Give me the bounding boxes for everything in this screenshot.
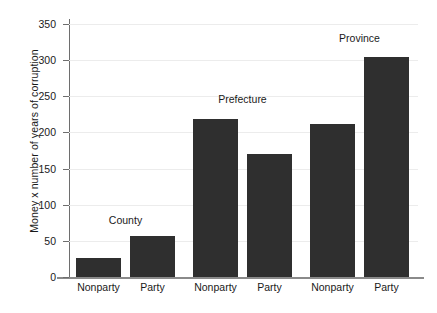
x-tick-label: Nonparty — [77, 281, 120, 293]
y-tick-label: 300 — [22, 54, 56, 66]
bar — [76, 258, 121, 277]
y-tick-mark — [63, 241, 69, 242]
x-tick-label: Party — [374, 281, 399, 293]
gridline — [69, 24, 418, 25]
x-tick-label: Nonparty — [311, 281, 354, 293]
y-tick-mark — [63, 205, 69, 206]
y-tick-mark — [63, 132, 69, 133]
bar — [364, 57, 409, 277]
y-tick-label: 200 — [22, 126, 56, 138]
y-tick-label: 50 — [22, 235, 56, 247]
x-tick-label: Party — [140, 281, 165, 293]
y-tick-mark — [63, 277, 69, 278]
y-tick-label: 250 — [22, 90, 56, 102]
y-tick-mark — [63, 169, 69, 170]
plot-area — [69, 19, 418, 277]
group-label: County — [109, 214, 142, 226]
y-axis-title: Money x number of years of corruption — [28, 11, 40, 271]
y-tick-label: 100 — [22, 199, 56, 211]
bar — [310, 124, 355, 277]
y-tick-label: 350 — [22, 18, 56, 30]
bar — [193, 119, 238, 277]
group-label: Province — [339, 32, 380, 44]
bar — [247, 154, 292, 277]
y-tick-mark — [63, 24, 69, 25]
y-tick-label: 0 — [22, 271, 56, 283]
x-tick-label: Party — [257, 281, 282, 293]
y-tick-mark — [63, 60, 69, 61]
group-label: Prefecture — [218, 93, 266, 105]
y-tick-mark — [63, 96, 69, 97]
x-tick-label: Nonparty — [194, 281, 237, 293]
x-axis-line — [57, 277, 424, 279]
bar — [130, 236, 175, 277]
y-tick-label: 150 — [22, 163, 56, 175]
bar-chart: Money x number of years of corruption 05… — [0, 0, 437, 313]
